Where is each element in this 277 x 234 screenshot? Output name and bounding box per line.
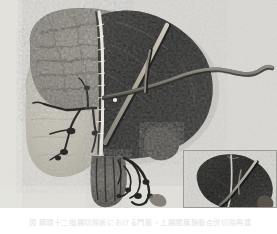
- inset-canvas: [183, 150, 277, 208]
- figure-caption: 図 膵頭十二指腸切除術における門脈・上腸間膜静脈合併切除再建: [14, 218, 266, 227]
- figure-caption-row: 図 膵頭十二指腸切除術における門脈・上腸間膜静脈合併切除再建: [0, 208, 277, 234]
- figure-root: 図 膵頭十二指腸切除術における門脈・上腸間膜静脈合併切除再建: [0, 0, 277, 234]
- specimen-photograph: [0, 0, 277, 208]
- inset-magnified-view: [183, 150, 277, 208]
